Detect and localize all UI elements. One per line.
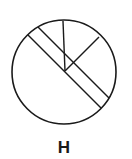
circle-diagram-figure: H (0, 0, 132, 159)
figure-label: H (0, 139, 128, 157)
radial-line-upper-right (65, 37, 99, 71)
band-lower-line (20, 27, 111, 118)
circle-diagram (0, 0, 132, 159)
band-upper-line (29, 18, 120, 109)
